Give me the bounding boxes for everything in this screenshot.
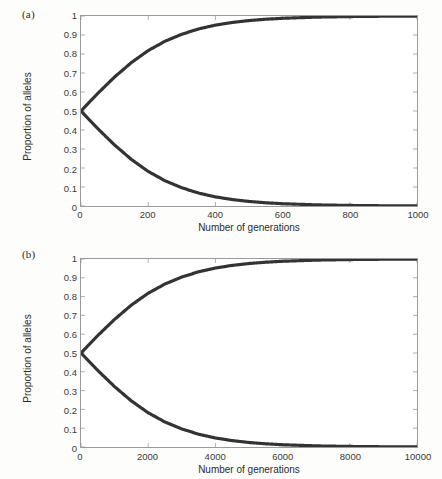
- y-tick-label: 0.1: [64, 182, 77, 193]
- plot-area-a: [80, 15, 418, 207]
- y-tick-labels-a: 00.10.20.30.40.50.60.70.80.91: [48, 15, 77, 207]
- y-tick-label: 0.4: [64, 367, 77, 378]
- panel-label-a: (a): [22, 8, 35, 20]
- y-tick-label: 0.7: [64, 310, 77, 321]
- y-tick-label: 0.8: [64, 48, 77, 59]
- x-tick-label: 2000: [137, 451, 158, 462]
- data-series-line: [81, 16, 417, 111]
- y-tick-label: 0.6: [64, 329, 77, 340]
- y-tick-label: 0.7: [64, 67, 77, 78]
- figure-container: (a) Proportion of alleles 00.10.20.30.40…: [0, 0, 442, 479]
- y-tick-label: 0.4: [64, 125, 77, 136]
- plot-svg-a: [81, 16, 417, 206]
- x-tick-label: 0: [77, 451, 82, 462]
- y-axis-title-b: Proportion of alleles: [22, 294, 33, 424]
- y-tick-label: 0.5: [64, 348, 77, 359]
- x-tick-labels-a: 02004006008001000: [80, 209, 418, 223]
- y-tick-label: 0.1: [64, 424, 77, 435]
- x-tick-label: 0: [77, 209, 82, 220]
- y-tick-label: 0.9: [64, 272, 77, 283]
- x-tick-labels-b: 0200040006000800010000: [80, 451, 418, 465]
- y-tick-label: 0.2: [64, 163, 77, 174]
- y-tick-label: 0.3: [64, 386, 77, 397]
- plot-svg-b: [81, 259, 417, 447]
- x-tick-label: 4000: [205, 451, 226, 462]
- x-axis-title-a: Number of generations: [80, 222, 418, 233]
- y-tick-label: 0.8: [64, 291, 77, 302]
- panel-a: (a) Proportion of alleles 00.10.20.30.40…: [0, 0, 442, 240]
- y-tick-label: 1: [72, 253, 77, 264]
- panel-label-b: (b): [22, 248, 35, 260]
- data-series-line: [81, 111, 417, 206]
- x-tick-label: 800: [342, 209, 358, 220]
- x-tick-label: 8000: [340, 451, 361, 462]
- y-tick-labels-b: 00.10.20.30.40.50.60.70.80.91: [48, 258, 77, 448]
- x-axis-title-b: Number of generations: [80, 464, 418, 475]
- x-tick-label: 10000: [405, 451, 431, 462]
- panel-b: (b) Proportion of alleles 00.10.20.30.40…: [0, 240, 442, 479]
- y-tick-label: 0: [72, 202, 77, 213]
- y-tick-label: 0.3: [64, 144, 77, 155]
- data-series-line: [81, 259, 417, 353]
- data-series-line: [81, 353, 417, 447]
- y-tick-label: 0.9: [64, 29, 77, 40]
- y-tick-label: 0.2: [64, 405, 77, 416]
- y-axis-title-a: Proportion of alleles: [22, 52, 33, 182]
- x-tick-label: 400: [207, 209, 223, 220]
- x-tick-label: 1000: [407, 209, 428, 220]
- y-tick-label: 0.6: [64, 86, 77, 97]
- plot-area-b: [80, 258, 418, 448]
- y-tick-label: 0.5: [64, 106, 77, 117]
- y-tick-label: 0: [72, 443, 77, 454]
- x-tick-label: 6000: [272, 451, 293, 462]
- y-tick-label: 1: [72, 10, 77, 21]
- x-tick-label: 200: [140, 209, 156, 220]
- x-tick-label: 600: [275, 209, 291, 220]
